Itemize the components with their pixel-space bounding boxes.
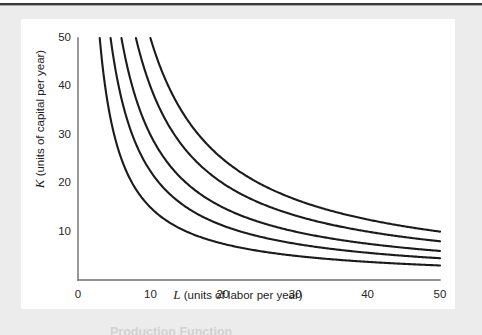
x-axis-variable: L — [173, 287, 180, 302]
x-axis-units: (units of labor per year) — [181, 289, 303, 301]
y-axis-units: (units of capital per year) — [34, 50, 46, 180]
isoquant-curve — [150, 38, 440, 232]
figure-caption: Production Function — [110, 325, 410, 335]
figure-page: 01020304050 1020304050 L (units of labor… — [0, 0, 482, 335]
x-axis-title: L (units of labor per year) — [21, 287, 455, 303]
y-tick-label: 10 — [42, 226, 71, 238]
isoquant-curve — [136, 38, 440, 241]
figure-panel: 01020304050 1020304050 L (units of labor… — [21, 19, 455, 309]
isoquant-curve — [121, 38, 440, 251]
isoquant-chart-svg — [21, 19, 455, 309]
isoquant-curve — [100, 38, 440, 265]
isoquant-curves-group — [100, 38, 440, 265]
plot-area: 01020304050 1020304050 L (units of labor… — [21, 19, 455, 309]
y-axis-variable: K — [32, 180, 47, 189]
y-axis-title: K (units of capital per year) — [32, 19, 48, 219]
axes-group — [78, 38, 440, 280]
isoquant-curve — [111, 38, 440, 258]
